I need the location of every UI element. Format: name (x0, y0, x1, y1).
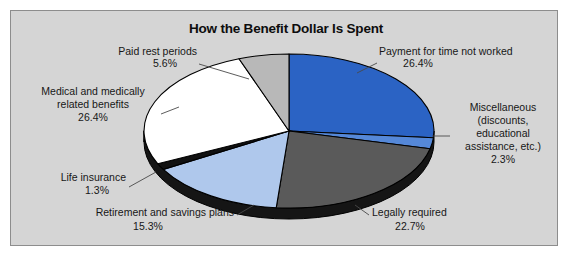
label-legally-required-line1: Legally required (372, 206, 447, 218)
label-life-insurance-line1: Life insurance (61, 171, 127, 183)
leader-line-life-insurance (129, 172, 156, 187)
label-miscellaneous-line2: (discounts, (478, 114, 529, 126)
label-miscellaneous-value: 2.3% (491, 153, 515, 165)
label-paid-rest-periods-value: 5.6% (153, 57, 177, 69)
label-medical-line2: related benefits (57, 98, 129, 110)
label-payment-for-time-not-worked-line1: Payment for time not worked (379, 45, 513, 57)
label-miscellaneous-line1: Miscellaneous (470, 101, 537, 113)
chart-frame: How the Benefit Dollar Is Spent (10, 10, 558, 246)
label-miscellaneous: Miscellaneous (discounts, educational as… (465, 101, 541, 165)
label-legally-required-value: 22.7% (395, 220, 425, 232)
label-retirement: Retirement and savings plans 15.3% (96, 206, 234, 232)
label-life-insurance-value: 1.3% (85, 184, 109, 196)
label-medical: Medical and medically related benefits 2… (41, 85, 145, 123)
label-medical-value: 26.4% (78, 111, 108, 123)
chart-title: How the Benefit Dollar Is Spent (189, 21, 384, 36)
label-life-insurance: Life insurance 1.3% (61, 171, 127, 196)
pie-chart: How the Benefit Dollar Is Spent (11, 11, 557, 245)
label-paid-rest-periods-line1: Paid rest periods (118, 45, 197, 57)
label-miscellaneous-line4: assistance, etc.) (465, 140, 541, 152)
label-retirement-value: 15.3% (133, 220, 163, 232)
label-payment-for-time-not-worked-value: 26.4% (403, 57, 433, 69)
pie-slices (144, 54, 434, 208)
label-payment-for-time-not-worked: Payment for time not worked 26.4% (379, 45, 513, 69)
label-paid-rest-periods: Paid rest periods 5.6% (118, 45, 197, 69)
label-miscellaneous-line3: educational (476, 127, 530, 139)
label-retirement-line1: Retirement and savings plans (96, 206, 234, 218)
label-legally-required: Legally required 22.7% (372, 206, 447, 232)
label-medical-line1: Medical and medically (41, 85, 145, 97)
